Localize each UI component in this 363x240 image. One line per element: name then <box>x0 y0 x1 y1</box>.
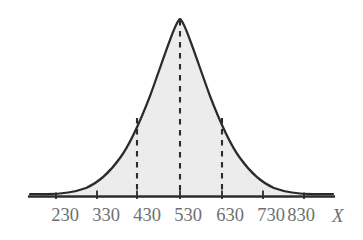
x-tick-label-630: 630 <box>210 206 250 225</box>
curve-fill-area <box>28 19 335 195</box>
x-axis-variable-label: X <box>332 206 344 225</box>
distribution-plot <box>0 0 363 240</box>
x-tick-label-530: 530 <box>168 206 208 225</box>
x-tick-label-230: 230 <box>45 206 85 225</box>
x-tick-label-330: 330 <box>86 206 126 225</box>
x-tick-label-430: 430 <box>127 206 167 225</box>
x-tick-label-830: 830 <box>281 206 321 225</box>
normal-distribution-figure: 230 330 430 530 630 730 830 X <box>0 0 363 240</box>
